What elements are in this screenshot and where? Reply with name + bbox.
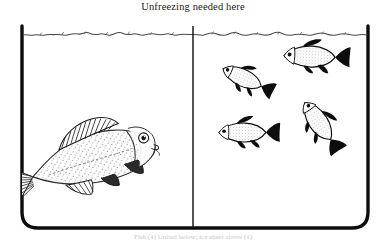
figure-container: Unfreezing needed here	[0, 0, 386, 244]
large-carp	[0, 105, 166, 216]
small-fish-upper-left	[217, 55, 279, 105]
small-fish-upper-right	[283, 37, 351, 75]
water-surface-line	[23, 32, 367, 36]
small-fish-lower-right	[292, 93, 352, 160]
fish-tank-illustration	[0, 0, 386, 244]
small-fish-lower-left	[219, 115, 281, 148]
figure-bottom-caption: Fish (4) United below; ice sheet above (…	[0, 233, 386, 242]
